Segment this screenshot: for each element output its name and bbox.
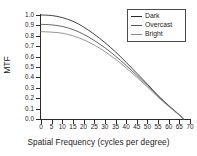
series-line-bright	[41, 32, 184, 119]
legend-item-bright: Bright	[128, 30, 185, 39]
legend-swatch-icon	[131, 16, 142, 17]
legend-item-overcast: Overcast	[128, 21, 185, 30]
y-axis-title: MTF	[2, 45, 12, 85]
x-axis-title: Spatial Frequency (cycles per degree)	[0, 138, 197, 147]
legend-item-dark: Dark	[128, 12, 185, 21]
legend-label: Bright	[145, 31, 163, 38]
legend-swatch-icon	[131, 34, 142, 35]
legend-label: Overcast	[145, 22, 172, 29]
legend-swatch-icon	[131, 25, 142, 26]
mtf-line-chart: 0.00.10.20.30.40.50.60.70.80.91.0 051015…	[0, 0, 197, 156]
legend-label: Dark	[145, 13, 159, 20]
chart-legend: Dark Overcast Bright	[127, 9, 186, 42]
